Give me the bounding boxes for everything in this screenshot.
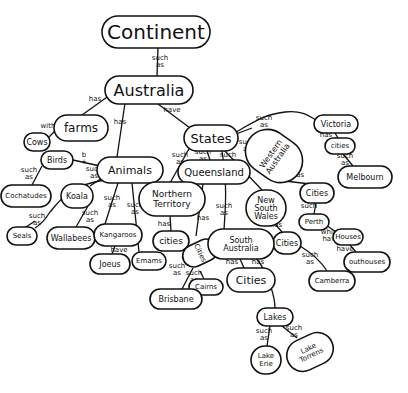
- node-label: Queensland: [184, 167, 244, 178]
- edge-animals-to-birds: b+: [73, 151, 100, 166]
- concept-map-canvas: suchashashashavewithb+suchassuchassuchas…: [0, 0, 408, 393]
- edge-nsw-cities-to-canberra: suchas: [300, 246, 327, 271]
- edge-label: b+: [81, 151, 87, 166]
- node-nt-cities: cities: [153, 231, 189, 251]
- node-sa-cities: Cities: [227, 268, 275, 292]
- node-label: Koala: [66, 192, 88, 201]
- node-label: Camberra: [315, 277, 350, 285]
- node-melbourne: Melbourn: [338, 166, 392, 188]
- node-label: Emams: [136, 257, 162, 265]
- node-new-south-wales: NewSouthWales: [246, 190, 286, 226]
- edge-birds-to-cockatoos: suchas: [21, 166, 42, 185]
- edge-label: suchas: [152, 54, 168, 69]
- node-nsw-cities: Cities: [273, 232, 301, 254]
- node-label: Cities: [236, 274, 267, 287]
- edge-label: suchas: [286, 324, 302, 339]
- edge-label: has: [114, 118, 127, 126]
- edge-continent-to-australia: suchas: [152, 48, 168, 76]
- node-northern-territory: NorthernTerritory: [139, 182, 205, 216]
- edge-label: suchas: [29, 212, 45, 227]
- node-label: LakeErie: [258, 352, 274, 367]
- node-label: Lakes: [264, 313, 287, 322]
- node-label: Cities: [306, 189, 328, 198]
- edge-label: has: [158, 220, 171, 228]
- node-label: Brisbane: [158, 295, 193, 304]
- node-vic-cities: cities: [325, 138, 355, 154]
- node-victoria: Victoria: [314, 115, 358, 133]
- edge-kangaroos-to-joeys: have: [110, 246, 127, 254]
- node-label: Australia: [114, 81, 185, 100]
- node-brisbane: Brisbane: [150, 289, 202, 309]
- node-label: farms: [64, 121, 98, 135]
- node-kangaroos: Kangaroos: [94, 224, 142, 246]
- node-label: Joeus: [98, 260, 120, 269]
- node-wallabees: Wallabees: [47, 227, 95, 249]
- connector-line: [240, 259, 244, 268]
- node-farms: farms: [54, 115, 108, 141]
- node-label: Cochatudes: [5, 192, 47, 200]
- node-label: Wallabees: [51, 234, 92, 243]
- node-label: Cities: [276, 239, 298, 248]
- node-label: Continent: [107, 20, 205, 44]
- edge-australia-to-animals: has: [114, 103, 127, 157]
- node-label: cities: [331, 142, 350, 150]
- edge-label: has: [197, 214, 210, 222]
- node-western-australia: WesternAustralia: [237, 121, 311, 191]
- node-label: Kangaroos: [100, 231, 137, 239]
- node-canberra: Camberra: [309, 271, 355, 291]
- node-label: Seals: [13, 232, 32, 240]
- edge-northern-territory-to-nt-cities: has: [158, 216, 171, 231]
- node-seals: Seals: [7, 227, 37, 245]
- node-lakes: Lakes: [257, 308, 293, 326]
- node-birds: Birds: [41, 151, 73, 169]
- node-label: NewSouthWales: [254, 195, 278, 221]
- node-label: Animals: [108, 164, 152, 177]
- node-label: Birds: [47, 156, 67, 165]
- node-label: Cows: [26, 138, 47, 147]
- node-label: Victoria: [321, 120, 351, 129]
- node-label: NorthernTerritory: [152, 189, 192, 208]
- edge-animals-to-wallabees: suchas: [76, 206, 98, 227]
- edge-cockatoos-to-seals: suchas: [26, 212, 45, 227]
- edge-label: suchas: [169, 262, 185, 277]
- node-koala: Koala: [61, 184, 93, 208]
- node-joeys: Joeus: [90, 254, 130, 274]
- edge-label: with: [41, 122, 56, 130]
- node-label: cities: [159, 236, 183, 246]
- node-animals: Animals: [97, 157, 163, 183]
- node-label: Houses: [335, 233, 361, 241]
- node-australia: Australia: [105, 76, 193, 104]
- edge-australia-to-states: have: [158, 104, 190, 128]
- node-label: Cairns: [195, 283, 217, 291]
- node-south-australia: SouthAustralia: [208, 229, 274, 259]
- edge-animals-to-kangaroos: suchas: [104, 183, 120, 224]
- node-lake-erie: LakeErie: [251, 346, 281, 374]
- node-continent: Continent: [102, 16, 210, 48]
- node-states: States: [184, 125, 238, 151]
- edge-australia-to-farms: has: [82, 95, 110, 115]
- node-emus: Emams: [132, 252, 166, 270]
- node-label: outhouses: [349, 258, 386, 266]
- connector-line: [117, 103, 125, 157]
- edge-label: suchas: [104, 194, 120, 209]
- edge-label: has: [89, 95, 102, 103]
- edge-label: have: [110, 246, 127, 254]
- edge-label: suchas: [256, 327, 272, 342]
- edge-lakes-to-lake-erie: suchas: [256, 326, 272, 346]
- node-queensland: Queensland: [178, 160, 250, 184]
- node-label: Perth: [305, 218, 323, 226]
- node-label: Melbourn: [346, 173, 383, 182]
- edge-label: suchas: [256, 114, 272, 129]
- edge-label: suchas: [82, 209, 98, 224]
- node-cockatoos: Cochatudes: [1, 185, 51, 207]
- node-outhouses: outhouses: [344, 252, 390, 272]
- node-perth: Perth: [299, 214, 329, 230]
- edge-label: have: [163, 106, 180, 114]
- node-wa-cities: Cities: [300, 183, 334, 203]
- node-houses: Houses: [333, 229, 363, 245]
- node-label: States: [190, 131, 231, 146]
- node-cows: Cows: [24, 133, 50, 151]
- edge-label: suchas: [216, 202, 232, 217]
- edge-label: suchas: [302, 251, 318, 266]
- node-layer: ContinentAustraliafarmsCowsBirdsAnimalsC…: [1, 16, 392, 377]
